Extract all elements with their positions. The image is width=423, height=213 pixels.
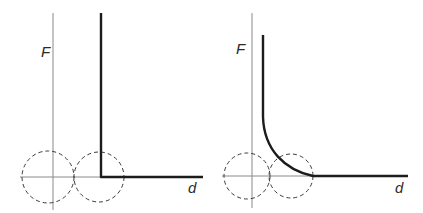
panel-left: F d (20, 13, 203, 210)
force-distance-diagram: F d F d (0, 0, 423, 213)
right-y-label-F: F (236, 40, 246, 57)
panel-right: F d (222, 13, 408, 208)
right-force-curve-soft (263, 35, 408, 176)
right-x-label-d: d (395, 179, 404, 196)
left-x-label-d: d (188, 179, 197, 196)
left-force-curve-step (101, 13, 203, 177)
left-y-label-F: F (41, 43, 51, 60)
